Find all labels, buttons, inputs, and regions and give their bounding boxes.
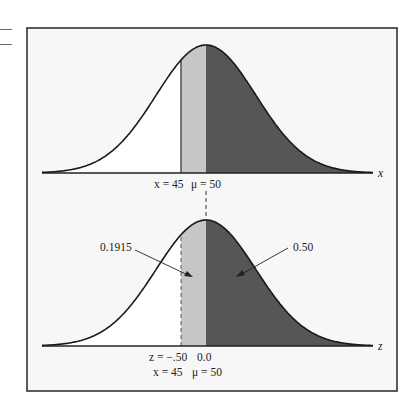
z-axis-label: z: [377, 340, 383, 352]
annotation-0.1915: 0.1915: [100, 241, 132, 253]
mean-tick-label: μ = 50: [191, 178, 221, 191]
x45-tick-label: x = 45: [154, 178, 184, 190]
normal-distribution-figure: x x = 45 μ = 50 z z = −.50 0.0 x = 45 μ …: [0, 0, 418, 414]
x-axis-label: x: [377, 167, 384, 179]
z-zero-tick-label: 0.0: [197, 351, 212, 363]
middle-region-45-to-50: [181, 45, 206, 173]
x45-tick-label-lower: x = 45: [153, 366, 183, 378]
mean-tick-label-lower: μ = 50: [192, 366, 222, 379]
middle-region-area-0.1915: [181, 220, 206, 346]
annotation-0.50: 0.50: [293, 241, 313, 253]
z-neg050-tick-label: z = −.50: [149, 351, 187, 363]
